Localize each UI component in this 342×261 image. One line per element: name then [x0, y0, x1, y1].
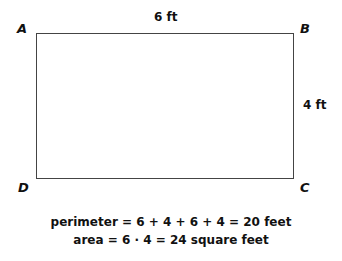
vertex-label-b: B	[300, 21, 310, 36]
area-equation: area = 6 · 4 = 24 square feet	[0, 233, 342, 247]
rectangle-abcd	[36, 33, 294, 179]
vertex-label-c: C	[300, 180, 310, 195]
right-side-length-label: 4 ft	[303, 98, 326, 112]
vertex-label-d: D	[18, 180, 29, 195]
vertex-label-a: A	[17, 21, 27, 36]
top-side-length-label: 6 ft	[154, 10, 177, 24]
perimeter-equation: perimeter = 6 + 4 + 6 + 4 = 20 feet	[0, 215, 342, 229]
